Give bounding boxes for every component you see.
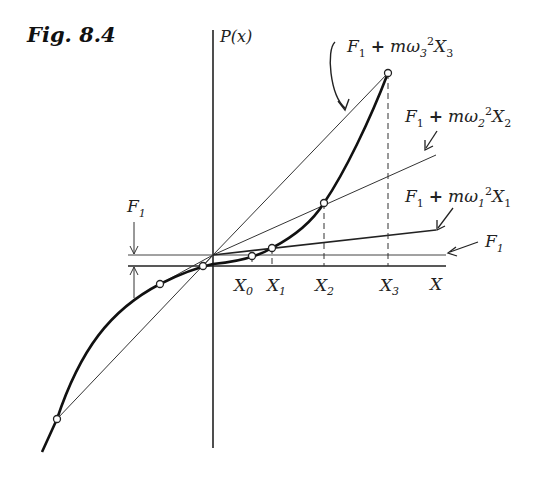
f1-left-label: F1 <box>126 196 146 220</box>
line2-arrow <box>426 131 437 148</box>
f1-dimension-arrows <box>130 222 138 298</box>
secant-line-3-neg <box>57 255 213 419</box>
tick-x3: X3 <box>378 275 399 298</box>
line3-label: F1+mω32X3 <box>346 35 453 60</box>
figure-title: Fig. 8.4 <box>26 22 116 47</box>
f1-arrow <box>450 242 478 252</box>
restoring-force-curve <box>42 73 388 452</box>
line2-label: F1+mω22X2 <box>404 105 511 130</box>
f1-right-label: F1 <box>484 231 504 255</box>
tick-x2: X2 <box>313 275 334 298</box>
line1-label: F1+mω12X1 <box>404 185 511 210</box>
line3-arrow <box>330 42 345 108</box>
y-axis-label: P(x) <box>219 27 252 46</box>
line1-arrow <box>438 208 453 228</box>
tick-x0: X0 <box>232 275 253 298</box>
x-axis-label: X <box>428 274 443 294</box>
figure-canvas: Fig. 8.4 P(x) X F1 X0 X1 X2 X3 <box>0 0 552 477</box>
tick-x1: X1 <box>265 275 286 298</box>
